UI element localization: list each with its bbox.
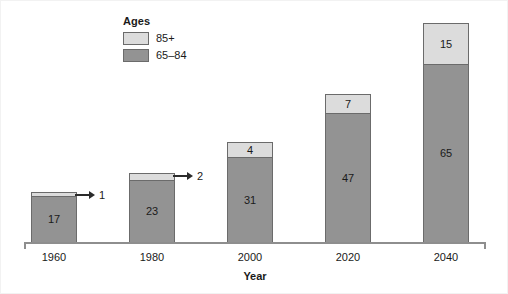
bar-1960-value-65to84: 17 [48, 214, 60, 225]
bar-2020[interactable]: 7 47 [325, 94, 371, 243]
bar-2000-value-85plus: 4 [247, 145, 253, 156]
callout-1960-85plus: 1 [75, 189, 105, 201]
x-axis-title: Year [1, 270, 508, 282]
bar-2000-value-65to84: 31 [244, 195, 256, 206]
x-axis-left-cap [24, 242, 26, 249]
bar-2040-segment-65to84: 65 [423, 64, 469, 243]
bar-2040-value-65to84: 65 [440, 148, 452, 159]
bar-1980-segment-65to84: 23 [129, 180, 175, 243]
bar-2040-segment-85plus: 15 [423, 23, 469, 65]
bar-2020-segment-65to84: 47 [325, 113, 371, 243]
bar-1960-segment-65to84: 17 [31, 196, 77, 243]
callout-1980-85plus: 2 [173, 170, 203, 182]
x-tick-label-2000: 2000 [215, 251, 285, 263]
callout-line-icon [75, 194, 89, 196]
bar-1960[interactable]: 1 17 [31, 192, 77, 243]
plot-area: 1 17 1 2 23 2 4 [1, 1, 508, 294]
bar-2000-segment-85plus: 4 [227, 142, 273, 158]
bar-2020-value-85plus: 7 [345, 99, 351, 110]
bar-1980[interactable]: 2 23 [129, 173, 175, 243]
x-axis-right-cap [484, 242, 486, 249]
callout-value-1960: 1 [99, 189, 105, 201]
x-tick-label-2040: 2040 [411, 251, 481, 263]
bar-2000[interactable]: 4 31 [227, 142, 273, 243]
bar-1980-value-65to84: 23 [146, 206, 158, 217]
x-axis-line [24, 242, 486, 244]
bar-2020-segment-85plus: 7 [325, 94, 371, 114]
arrow-right-icon [89, 191, 95, 199]
x-tick-label-1980: 1980 [117, 251, 187, 263]
chart-page: Ages 85+ 65–84 1 17 1 2 [0, 0, 508, 294]
bar-2000-segment-65to84: 31 [227, 157, 273, 243]
bar-2040-value-85plus: 15 [440, 39, 452, 50]
arrow-right-icon [187, 172, 193, 180]
callout-line-icon [173, 175, 187, 177]
callout-value-1980: 2 [197, 170, 203, 182]
x-tick-label-1960: 1960 [19, 251, 89, 263]
bar-2040[interactable]: 15 65 [423, 23, 469, 243]
x-tick-label-2020: 2020 [313, 251, 383, 263]
bar-2020-value-65to84: 47 [342, 173, 354, 184]
